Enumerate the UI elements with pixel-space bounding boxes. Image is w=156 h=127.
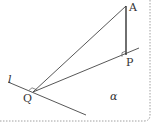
- label-Q: Q: [23, 92, 32, 105]
- label-plane-alpha: α: [110, 90, 118, 103]
- label-line-l: l: [8, 73, 12, 86]
- segment-QP: [33, 48, 139, 92]
- diagram-canvas: A P Q l α: [0, 0, 156, 127]
- label-A: A: [128, 1, 138, 14]
- line-l: [8, 82, 86, 115]
- label-P: P: [126, 56, 134, 69]
- segment-AQ: [33, 6, 126, 92]
